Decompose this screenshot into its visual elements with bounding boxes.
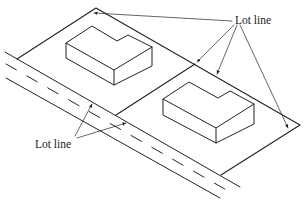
- leader-right-edge: [240, 25, 288, 128]
- leader-divider: [197, 25, 234, 62]
- lot-line-label-bottom: Lot line: [35, 138, 71, 150]
- leader-road-edge: [75, 104, 92, 136]
- diagram-drawing: [0, 0, 306, 201]
- lot-line-label-top: Lot line: [235, 14, 271, 26]
- lot-divider: [116, 64, 195, 115]
- building-1: [66, 26, 152, 85]
- road-edge-upper: [5, 52, 240, 187]
- leader-top-vertex: [94, 13, 232, 21]
- leader-lot-front: [77, 123, 126, 138]
- site-plan-diagram: Lot line Lot line: [0, 0, 306, 201]
